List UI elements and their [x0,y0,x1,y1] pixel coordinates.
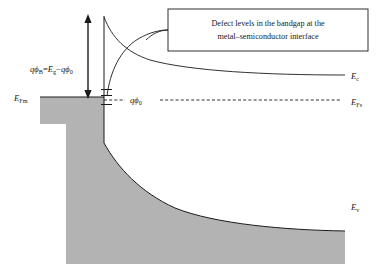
E-c-text: Ec [350,71,359,82]
barrier-height-arrow [84,14,91,99]
E-v-sub: v [356,206,360,213]
barrier-equation-text: qϕB=Eg−qϕ0 [30,64,73,75]
band-diagram-figure: Defect levels in the bandgap at the meta… [0,0,377,264]
label-E-Fs: EFs [350,97,363,108]
charge-neutrality-level-label: qϕ0 [130,95,142,106]
E-Fs-sub: Fs [356,101,362,108]
defect-level-leader-line [107,30,168,96]
label-E-Fm: EFm [13,93,28,104]
E-c-sub: c [356,75,359,82]
label-E-v: Ev [350,202,360,213]
E-Fm-sub: Fm [19,97,27,104]
E-Fs-text: EFs [350,97,363,108]
valence-band-region [66,143,345,264]
eq-sub-0: 0 [70,68,73,75]
callout-box: Defect levels in the bandgap at the meta… [168,9,368,51]
callout-line-2: metal–semiconductor interface [217,32,319,41]
E-Fm-text: EFm [13,93,28,104]
qphi0-text: qϕ0 [130,95,142,106]
barrier-height-equation: qϕB=Eg−qϕ0 [30,64,73,75]
qphi0-sub: 0 [139,99,142,106]
callout-line-1: Defect levels in the bandgap at the [211,19,325,28]
label-E-c: Ec [350,71,359,82]
E-v-text: Ev [350,202,360,213]
metal-region [40,97,104,143]
